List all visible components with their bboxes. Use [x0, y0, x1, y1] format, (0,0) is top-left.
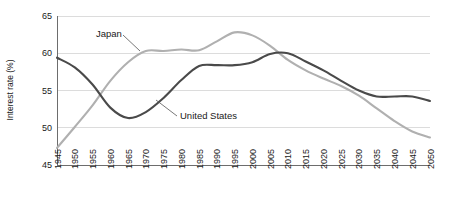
annotation-leader-line — [156, 100, 177, 116]
x-tick-label: 1965 — [124, 149, 134, 169]
x-tick-label: 1980 — [177, 149, 187, 169]
interest-rate-line-chart: 4550556065 19451950195519601965197019751… — [0, 0, 451, 213]
x-tick-label: 2020 — [319, 149, 329, 169]
x-tick-labels: 1945195019551960196519701975198019851990… — [53, 149, 436, 169]
series-line-united-states — [57, 53, 430, 119]
x-tick-label: 1995 — [230, 149, 240, 169]
x-tick-label: 2015 — [301, 149, 311, 169]
x-tick-label: 2005 — [266, 149, 276, 169]
series-annotation-label: United States — [180, 110, 237, 121]
x-tick-label: 1970 — [141, 149, 151, 169]
x-tick-label: 1950 — [70, 149, 80, 169]
x-tick-label: 1960 — [106, 149, 116, 169]
x-tick-label: 1975 — [159, 149, 169, 169]
x-tick-label: 1990 — [212, 149, 222, 169]
series-line-japan — [57, 32, 430, 148]
y-tick-label: 50 — [42, 123, 52, 133]
x-tick-label: 2010 — [283, 149, 293, 169]
x-tick-label: 2000 — [248, 149, 258, 169]
chart-container: 4550556065 19451950195519601965197019751… — [0, 0, 451, 213]
y-tick-label: 55 — [42, 86, 52, 96]
y-tick-label: 65 — [42, 11, 52, 21]
series-annotation-label: Japan — [96, 28, 122, 39]
x-tick-label: 2025 — [337, 149, 347, 169]
x-tick-label: 2040 — [390, 149, 400, 169]
x-tick-label: 2045 — [408, 149, 418, 169]
y-tick-labels: 4550556065 — [42, 11, 52, 170]
x-tick-label: 1945 — [53, 149, 63, 169]
y-axis-title: Interest rate (%) — [5, 59, 15, 120]
y-tick-label: 45 — [42, 160, 52, 170]
series-lines — [57, 32, 430, 148]
x-tick-label: 1955 — [88, 149, 98, 169]
annotation-leader-line — [123, 35, 140, 51]
x-tick-label: 2050 — [426, 149, 436, 169]
y-tick-label: 60 — [42, 48, 52, 58]
x-tick-label: 2035 — [372, 149, 382, 169]
x-tick-label: 1985 — [195, 149, 205, 169]
x-tick-label: 2030 — [354, 149, 364, 169]
